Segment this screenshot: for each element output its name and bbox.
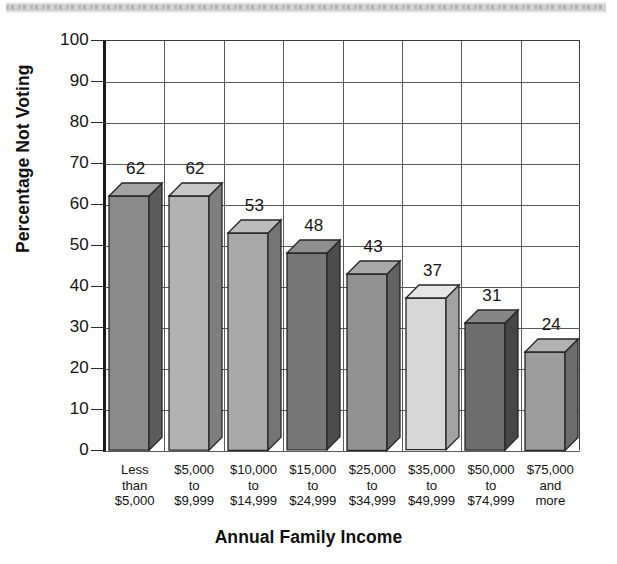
y-axis-tick (91, 409, 105, 410)
gridline-vertical (402, 41, 403, 451)
bar-value-label: 37 (423, 261, 442, 281)
y-axis-tick-label: 20 (43, 358, 89, 378)
y-axis-tick-label: 10 (43, 399, 89, 419)
y-axis-tick (91, 245, 105, 246)
gridline-vertical (283, 41, 284, 451)
y-axis-title: Percentage Not Voting (13, 65, 34, 253)
bar (109, 196, 149, 450)
y-axis-tick (91, 450, 105, 451)
y-axis-tick (91, 163, 105, 164)
gridline-vertical (461, 41, 462, 451)
y-axis-tick-label: 30 (43, 317, 89, 337)
y-axis-tick (91, 40, 105, 41)
y-axis-tick (91, 368, 105, 369)
y-axis-tick (91, 122, 105, 123)
bar-value-label: 48 (304, 216, 323, 236)
y-axis-tick-label: 40 (43, 276, 89, 296)
y-axis-tick (91, 81, 105, 82)
y-axis-tick-label: 0 (43, 440, 89, 460)
bar-value-label: 24 (542, 315, 561, 335)
y-axis-tick (91, 327, 105, 328)
y-axis-tick (91, 204, 105, 205)
bar (228, 233, 268, 450)
bar (406, 298, 446, 450)
bar-value-label: 43 (364, 237, 383, 257)
y-axis-tick-label: 90 (43, 71, 89, 91)
y-axis-tick-label: 80 (43, 112, 89, 132)
bar (169, 196, 209, 450)
bar-value-label: 62 (185, 159, 204, 179)
bar-value-label: 62 (126, 159, 145, 179)
x-axis-title: Annual Family Income (0, 527, 617, 548)
bar (525, 352, 565, 450)
y-axis-tick-label: 100 (43, 30, 89, 50)
gridline-vertical (343, 41, 344, 451)
gridline-vertical (521, 41, 522, 451)
gridline-vertical (224, 41, 225, 451)
y-axis-tick-label: 70 (43, 153, 89, 173)
y-axis-tick-label: 50 (43, 235, 89, 255)
bar-value-label: 53 (245, 196, 264, 216)
bar (465, 323, 505, 450)
bar (347, 274, 387, 450)
y-axis-tick (91, 286, 105, 287)
y-axis-tick-label: 60 (43, 194, 89, 214)
bar (287, 253, 327, 450)
gridline-vertical (164, 41, 165, 451)
bar-chart: Percentage Not Voting 100908070605040302… (0, 0, 617, 564)
category-label: $75,000 and more (513, 462, 588, 509)
bar-value-label: 31 (482, 286, 501, 306)
